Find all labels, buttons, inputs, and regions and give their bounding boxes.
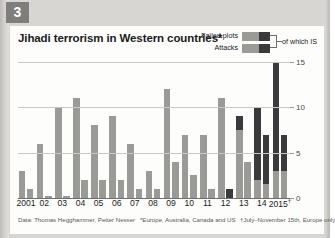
bar-attacks [208,189,215,198]
figure-number-badge: 3 [6,2,29,23]
x-axis-tick-04: 04 [76,198,86,208]
legend-label-attacks: Attacks [188,43,238,52]
chart-footnotes: Data: Thomas Hegghammer, Petter Nesser *… [16,216,320,228]
x-axis-tick-2015: 2015† [269,198,291,209]
gridline-15 [18,62,290,63]
chart-bars [18,62,290,198]
bar-group [236,62,254,198]
bar-failed-plots [146,171,153,198]
bar-group [163,62,181,198]
bar-group [217,62,235,198]
bar-group [199,62,217,198]
legend-swatch-failed-plots [242,32,270,41]
legend-swatch-is-attacks [259,44,270,53]
bar-group [272,62,290,198]
x-axis-tick-05: 05 [94,198,104,208]
bar-attacks [118,180,125,198]
bar-segment-is [263,135,270,185]
bar-attacks [99,180,106,198]
bar-failed-plots [236,116,243,198]
bar-attacks [263,135,270,198]
x-axis-tick-11: 11 [203,198,212,208]
bar-attacks [281,135,288,198]
chart-x-axis: 2001020304050607080910111213142015† [18,198,290,212]
bar-attacks [154,189,161,198]
y-axis-tick-0: 0 [296,194,300,203]
bar-attacks [244,162,251,198]
y-axis-tick-5: 5 [296,148,300,157]
footnote-source: Data: Thomas Hegghammer, Petter Nesser [18,216,135,223]
bar-failed-plots [182,135,189,198]
x-axis-tick-14: 14 [257,198,267,208]
bar-attacks [27,189,34,198]
bar-failed-plots [73,98,80,198]
y-axis-tick-mark-0 [290,198,294,199]
x-axis-tick-13: 13 [239,198,249,208]
bar-failed-plots [164,89,171,198]
legend-label-failed-plots: Failed plots [188,31,238,40]
footnote-dagger: †July–November 15th, Europe only [240,216,335,223]
x-axis-tick-09: 09 [166,198,176,208]
bar-segment-is [236,116,243,130]
legend-swatch-attacks [242,44,270,53]
bar-failed-plots [273,62,280,198]
x-axis-tick-10: 10 [184,198,194,208]
chart-card: Jihadi terrorism in Western countries* F… [10,26,324,234]
bar-group [127,62,145,198]
gridline-10 [18,107,290,108]
bar-attacks [226,189,233,198]
y-axis-tick-10: 10 [296,103,305,112]
y-axis-tick-mark-10 [290,107,294,108]
bar-attacks [190,175,197,198]
x-axis-tick-2001: 2001 [17,198,36,208]
bar-segment-is [254,107,261,180]
x-axis-tick-03: 03 [58,198,68,208]
bar-failed-plots [109,116,116,198]
bar-attacks [136,189,143,198]
x-axis-tick-07: 07 [130,198,140,208]
x-axis-tick-02: 02 [39,198,49,208]
footnote-star: *Europe, Australia, Canada and US [140,216,236,223]
bar-group [72,62,90,198]
bar-failed-plots [91,125,98,198]
y-axis-tick-mark-15 [290,62,294,63]
x-axis-tick-12: 12 [221,198,231,208]
chart-plot-area [18,62,290,198]
bar-segment-is [226,189,233,198]
bar-group [18,62,36,198]
bar-group [54,62,72,198]
page-edge-right [326,0,330,238]
page-edge-left [0,0,9,238]
bar-failed-plots [19,171,26,198]
legend-bracket [270,35,277,48]
bar-group [91,62,109,198]
x-axis-tick-06: 06 [112,198,122,208]
bar-group [109,62,127,198]
bar-group [254,62,272,198]
bar-group [145,62,163,198]
bar-group [36,62,54,198]
bar-failed-plots [218,98,225,198]
bar-group [181,62,199,198]
bar-failed-plots [200,135,207,198]
legend-label-of-which-is: of which IS [282,37,317,46]
gridline-5 [18,153,290,154]
x-axis-tick-08: 08 [148,198,158,208]
legend-swatch-is-failed-plots [259,32,270,41]
y-axis-tick-mark-5 [290,153,294,154]
bar-attacks [81,180,88,198]
bar-attacks [172,162,179,198]
bar-segment-is [273,62,280,171]
y-axis-tick-15: 15 [296,58,305,67]
chart-legend: Failed plots Attacks of which IS [188,31,320,59]
